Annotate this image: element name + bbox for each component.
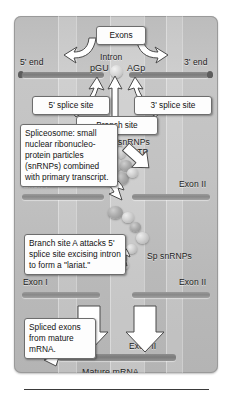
label-mature-mrna: Mature mRNA (82, 368, 139, 373)
callout-spliced-exons-text: Spliced exons from mature mRNA. (29, 322, 81, 354)
callout-5-splice-site: 5' splice site (32, 96, 110, 115)
label-intron: Intron (100, 53, 122, 62)
stage3-snrnp-particle (122, 212, 134, 223)
stage3-label-exon-2: Exon II (179, 278, 206, 287)
stage3-snrnp-particle (126, 244, 137, 254)
label-3-prime-end: 3' end (184, 58, 208, 67)
snrnp-particle (127, 168, 138, 178)
stage3-label-exon-1: Exon I (23, 278, 48, 287)
callout-spliceosome-text: Spliceosome: small nuclear ribonucleo-pr… (25, 128, 108, 182)
callout-3-splice-site: 3' splice site (134, 96, 212, 115)
figure-container: 5' end 3' end Intron pGU AGp Sp snRNPs A… (0, 0, 232, 408)
callout-spliceosome: Spliceosome: small nuclear ribonucleo-pr… (20, 124, 118, 187)
transcript-3prime-tip (207, 71, 213, 78)
callout-lariat: Branch site A attacks 5' splice site exc… (24, 234, 126, 275)
callout-exons-text: Exons (109, 30, 132, 40)
stage2-exon2-strand (132, 194, 210, 200)
stage3-label-snrnps: Sp snRNPs (147, 252, 192, 261)
stage3-snrnp-particle (130, 222, 141, 232)
branch-site-a-circle (110, 65, 123, 78)
callout-spliced-exons: Spliced exons from mature mRNA. (24, 318, 96, 359)
callout-exons: Exons (96, 26, 146, 45)
illustration-panel: 5' end 3' end Intron pGU AGp Sp snRNPs A… (14, 16, 218, 373)
callout-lariat-text: Branch site A attacks 5' splice site exc… (29, 238, 121, 270)
stage2-label-exon-2: Exon II (179, 180, 206, 189)
label-5-prime-end: 5' end (20, 58, 44, 67)
label-3-splice-sequence: AGp (127, 64, 145, 73)
stage2-exon1-strand (22, 194, 104, 200)
stage4-label-exon-2: Exon II (129, 342, 156, 351)
stage3-snrnp-particle (108, 206, 123, 219)
callout-5-splice-text: 5' splice site (49, 100, 94, 110)
stage3-exon2-strand (132, 292, 210, 298)
stage3-snrnp-particle (136, 232, 149, 244)
stage2-label-atp: ATP (132, 148, 148, 157)
figure-rule (24, 389, 209, 390)
label-5-splice-sequence: pGU (90, 64, 109, 73)
stage3-exon1-strand (22, 292, 100, 298)
callout-3-splice-text: 3' splice site (151, 100, 196, 110)
